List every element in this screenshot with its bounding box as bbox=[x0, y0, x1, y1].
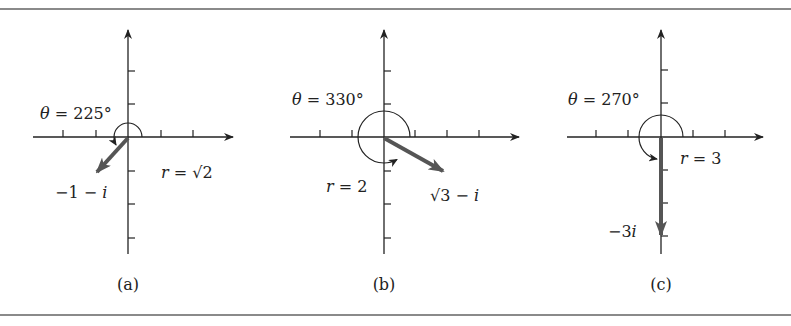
z-label: −1 − i bbox=[55, 183, 107, 202]
panel-b: θ = 330° r = 2 √3 − i (b) bbox=[290, 30, 519, 294]
z-label: √3 − i bbox=[430, 186, 479, 205]
theta-label: θ = 270° bbox=[568, 90, 640, 109]
r-label: r = 2 bbox=[326, 177, 367, 196]
vector-arrow bbox=[97, 138, 128, 172]
panel-caption: (b) bbox=[373, 275, 396, 294]
imaginary-axis-ticks bbox=[384, 71, 391, 238]
panel-caption: (c) bbox=[650, 275, 671, 294]
theta-label: θ = 225° bbox=[40, 104, 112, 123]
r-label: r = 3 bbox=[680, 149, 721, 168]
r-label: r = √2 bbox=[161, 163, 213, 182]
polar-form-figure: θ = 225° r = √2 −1 − i (a) θ = 330° r = … bbox=[0, 0, 791, 326]
panel-a: θ = 225° r = √2 −1 − i (a) bbox=[33, 30, 233, 294]
panel-caption: (a) bbox=[117, 275, 139, 294]
z-label: −3i bbox=[608, 222, 637, 241]
real-axis-ticks bbox=[320, 130, 479, 137]
vector-arrow bbox=[384, 138, 443, 171]
imaginary-axis-ticks bbox=[128, 71, 135, 238]
panel-c: θ = 270° r = 3 −3i (c) bbox=[567, 30, 763, 294]
theta-label: θ = 330° bbox=[292, 90, 364, 109]
